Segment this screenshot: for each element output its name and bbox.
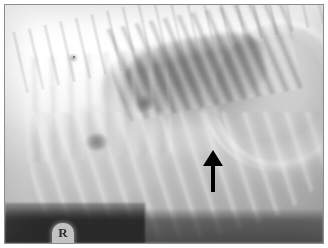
cardiac-silhouette-region (43, 105, 170, 200)
diaphragm-border-line (202, 19, 323, 170)
marker-letter: R (52, 226, 74, 239)
focal-opacity-lower (86, 134, 108, 151)
film-vignette (5, 5, 323, 243)
lung-field-region (100, 36, 297, 145)
vertebral-column-region (5, 5, 323, 103)
dorsal-lung-wedge (121, 27, 271, 122)
radiograph-frame: R (4, 4, 324, 244)
radiograph-image: R (5, 5, 323, 243)
ventral-rib-arcs (30, 112, 323, 241)
pinpoint-artifact (73, 56, 75, 58)
focal-opacity-central (137, 95, 154, 110)
diaphragm-region (215, 24, 323, 162)
xray-film-base (5, 5, 323, 243)
radiopaque-marker: R (52, 223, 74, 243)
focal-opacity-upper (70, 55, 77, 61)
dorsal-rib-bundle (104, 5, 303, 123)
up-arrow-icon (201, 149, 225, 193)
table-edge-band-left (5, 203, 145, 243)
vertebral-body-segments (5, 5, 323, 95)
soft-tissue-region (5, 5, 221, 148)
radiograph-figure: R (0, 0, 328, 248)
cranial-rib-bundle (21, 48, 174, 163)
film-grain-overlay (5, 5, 323, 243)
